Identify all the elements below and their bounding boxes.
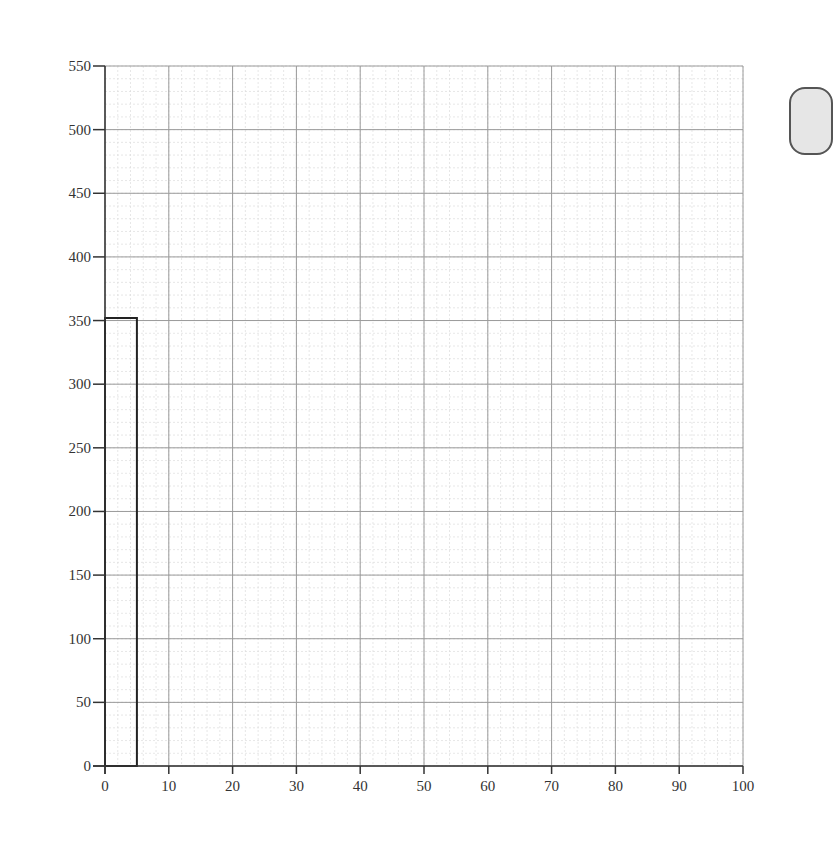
x-tick-label: 80: [608, 778, 623, 794]
x-tick-label: 90: [672, 778, 687, 794]
x-tick-label: 30: [289, 778, 304, 794]
y-tick-label: 50: [76, 694, 91, 710]
y-tick-label: 150: [69, 567, 92, 583]
y-tick-label: 500: [69, 122, 92, 138]
x-tick-label: 50: [417, 778, 432, 794]
x-tick-label: 20: [225, 778, 240, 794]
y-tick-label: 400: [69, 249, 92, 265]
axes: [93, 66, 743, 774]
y-tick-label: 100: [69, 631, 92, 647]
y-tick-label: 550: [69, 58, 92, 74]
y-tick-label: 250: [69, 440, 92, 456]
y-tick-label: 0: [84, 758, 92, 774]
x-tick-label: 60: [480, 778, 495, 794]
x-tick-label: 70: [544, 778, 559, 794]
y-tick-label: 200: [69, 503, 92, 519]
y-axis-tick-labels: 050100150200250300350400450500550: [69, 58, 92, 774]
histogram-bar: [105, 318, 137, 766]
x-tick-label: 10: [161, 778, 176, 794]
x-tick-label: 0: [101, 778, 109, 794]
x-tick-label: 40: [353, 778, 368, 794]
y-tick-label: 300: [69, 376, 92, 392]
y-tick-label: 350: [69, 313, 92, 329]
major-grid: [105, 66, 743, 766]
annotation-box: [789, 87, 833, 155]
x-axis-tick-labels: 0102030405060708090100: [101, 778, 754, 794]
y-tick-label: 450: [69, 185, 92, 201]
x-tick-label: 100: [732, 778, 755, 794]
bars: [105, 318, 137, 766]
